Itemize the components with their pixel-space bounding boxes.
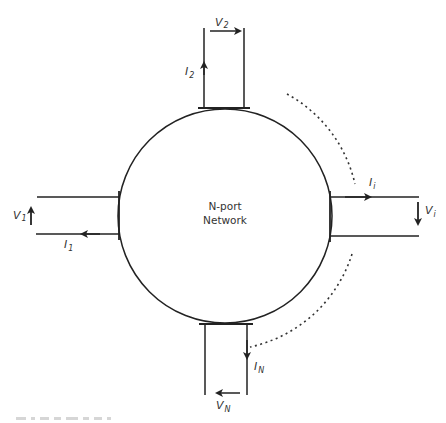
- center-label-line2: Network: [203, 214, 248, 226]
- svg-text:Vi: Vi: [425, 204, 437, 219]
- vi-sub: i: [434, 210, 437, 219]
- port-2: V2 I2: [185, 16, 250, 108]
- svg-text:VN: VN: [216, 399, 231, 414]
- svg-text:I1: I1: [64, 238, 73, 253]
- i2-label: I: [185, 65, 188, 78]
- svg-text:IN: IN: [254, 360, 264, 375]
- svg-text:Ii: Ii: [369, 176, 376, 191]
- i2-sub: 2: [189, 71, 194, 80]
- ii-sub: i: [373, 182, 376, 191]
- clipped-caption: [16, 417, 146, 423]
- iN-label: I: [254, 360, 257, 373]
- i1-label: I: [64, 238, 67, 251]
- svg-text:V2: V2: [215, 16, 229, 30]
- dotted-arc-lower: [250, 254, 352, 347]
- svg-text:I2: I2: [185, 65, 194, 80]
- vN-sub: N: [225, 405, 231, 414]
- v2-sub: 2: [224, 21, 229, 30]
- dotted-arc-upper: [287, 94, 355, 184]
- center-label-line1: N-port: [208, 200, 241, 212]
- i1-sub: 1: [68, 244, 73, 253]
- iN-sub: N: [258, 366, 264, 375]
- port-1: V1 I1: [13, 191, 119, 253]
- port-i: Ii Vi: [330, 176, 437, 242]
- svg-text:V1: V1: [13, 209, 27, 223]
- port-N: IN VN: [199, 324, 264, 414]
- v1-sub: 1: [22, 214, 27, 223]
- n-port-network-diagram: V2 I2 V1 I1 Ii Vi IN VN N-port Network: [0, 0, 446, 423]
- ii-label: I: [369, 176, 372, 189]
